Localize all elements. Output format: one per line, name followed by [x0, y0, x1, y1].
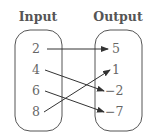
input-value-8: 8 [32, 104, 40, 119]
output-value-5: 5 [112, 41, 120, 56]
mapping-diagram: Input Output 2 4 6 8 5 1 −2 −7 [0, 0, 149, 140]
input-header: Input [19, 9, 58, 24]
input-value-4: 4 [32, 62, 40, 77]
output-header: Output [93, 9, 143, 24]
output-value-neg7: −7 [105, 104, 123, 119]
arrow-8-to-1 [44, 70, 110, 112]
output-value-neg2: −2 [105, 83, 123, 98]
input-value-2: 2 [32, 41, 40, 56]
input-value-6: 6 [32, 83, 40, 98]
output-value-1: 1 [112, 62, 120, 77]
